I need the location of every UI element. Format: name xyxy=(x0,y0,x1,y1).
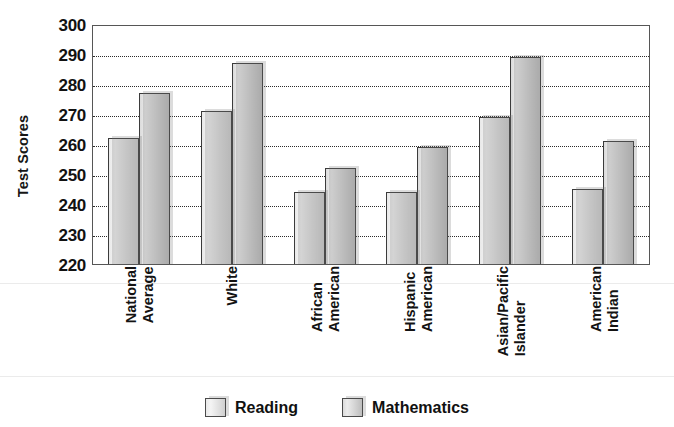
x-label-cell: NationalAverage xyxy=(92,266,185,391)
bar-group xyxy=(371,26,464,264)
chart-legend: ReadingMathematics xyxy=(0,398,674,417)
legend-item[interactable]: Mathematics xyxy=(342,398,469,417)
x-axis-tick-label: NationalAverage xyxy=(122,266,155,323)
x-label-cell: Asian/PacificIslander xyxy=(464,266,557,391)
x-label-cell: HispanicAmerican xyxy=(371,266,464,391)
x-axis-tick-label: AmericanIndian xyxy=(587,266,620,332)
bar-mathematics-hispanic-american[interactable] xyxy=(417,147,448,264)
bar-group xyxy=(556,26,649,264)
y-tick-label: 240 xyxy=(59,197,86,214)
y-tick-label: 230 xyxy=(59,227,86,244)
bar-group xyxy=(464,26,557,264)
bar-reading-african-american[interactable] xyxy=(294,192,325,264)
x-axis-category-labels: NationalAverageWhiteAfricanAmericanHispa… xyxy=(92,266,650,391)
chart-title xyxy=(0,0,674,5)
x-axis-tick-label: AfricanAmerican xyxy=(308,266,341,332)
y-axis-label: Test Scores xyxy=(15,81,31,231)
x-label-cell: AfricanAmerican xyxy=(278,266,371,391)
bar-mathematics-national-average[interactable] xyxy=(139,93,170,264)
y-tick-label: 270 xyxy=(59,107,86,124)
y-tick-label: 300 xyxy=(59,17,86,34)
bar-reading-national-average[interactable] xyxy=(108,138,139,264)
bar-reading-white[interactable] xyxy=(201,111,232,264)
bar-mathematics-african-american[interactable] xyxy=(325,168,356,264)
y-axis-tick-labels: 300290280270260250240230220 xyxy=(40,25,86,265)
legend-label: Mathematics xyxy=(372,399,469,417)
legend-label: Reading xyxy=(235,399,298,417)
y-tick-label: 290 xyxy=(59,47,86,64)
legend-item[interactable]: Reading xyxy=(205,398,298,417)
bar-mathematics-american-indian[interactable] xyxy=(603,141,634,264)
y-tick-label: 250 xyxy=(59,167,86,184)
bar-group xyxy=(278,26,371,264)
x-label-cell: AmericanIndian xyxy=(557,266,650,391)
legend-swatch-math xyxy=(342,398,363,417)
bar-group xyxy=(186,26,279,264)
bar-reading-asian-pacific-islander[interactable] xyxy=(479,117,510,264)
legend-swatch-reading xyxy=(205,398,226,417)
x-axis-tick-label: White xyxy=(223,266,240,305)
bar-reading-american-indian[interactable] xyxy=(572,189,603,264)
y-tick-label: 220 xyxy=(59,257,86,274)
y-tick-label: 280 xyxy=(59,77,86,94)
y-tick-label: 260 xyxy=(59,137,86,154)
bar-mathematics-white[interactable] xyxy=(232,63,263,264)
bar-group xyxy=(93,26,186,264)
x-axis-tick-label: HispanicAmerican xyxy=(401,266,434,332)
x-axis-tick-label: Asian/PacificIslander xyxy=(494,266,527,356)
plot-area xyxy=(92,25,650,265)
bar-reading-hispanic-american[interactable] xyxy=(386,192,417,264)
x-label-cell: White xyxy=(185,266,278,391)
bar-mathematics-asian-pacific-islander[interactable] xyxy=(510,57,541,264)
bar-series-container xyxy=(93,26,649,264)
